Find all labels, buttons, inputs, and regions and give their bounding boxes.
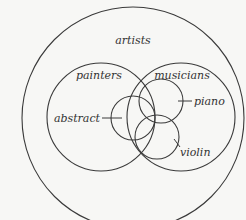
euler-diagram: artists painters musicians abstract pian… <box>0 0 246 220</box>
painters-label: painters <box>76 69 122 82</box>
piano-label: piano <box>194 95 225 108</box>
piano-circle <box>139 79 183 123</box>
abstract-label: abstract <box>54 112 101 125</box>
violin-circle <box>135 115 179 159</box>
musicians-label: musicians <box>154 69 210 82</box>
artists-label: artists <box>115 34 151 47</box>
violin-label: violin <box>180 146 210 159</box>
